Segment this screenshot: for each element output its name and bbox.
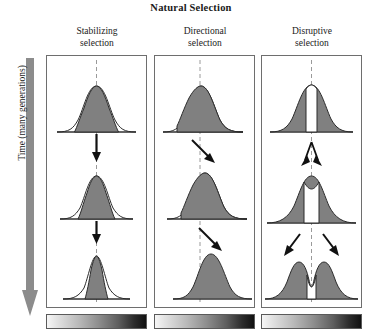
column-header-line2: selection	[45, 38, 149, 50]
column-header-line2: selection	[260, 38, 364, 50]
distribution-stage-2	[167, 173, 247, 219]
column-header-disruptive: Disruptive selection	[260, 26, 364, 49]
column-header-line1: Disruptive	[292, 26, 332, 36]
panel-directional	[154, 55, 255, 308]
disruptive-plot	[262, 56, 361, 307]
gradient-bar-directional	[154, 314, 255, 329]
panel-disruptive	[261, 55, 362, 308]
natural-selection-figure: Natural Selection Stabilizing selection …	[0, 0, 382, 336]
distribution-stage-1	[270, 85, 353, 132]
column-header-line1: Stabilizing	[76, 26, 117, 36]
gradient-bar-disruptive	[261, 314, 362, 329]
panel-stabilizing	[46, 55, 147, 308]
distribution-stage-2	[267, 176, 356, 223]
column-header-line2: selection	[153, 38, 257, 50]
distribution-stage-1	[163, 86, 243, 132]
column-header-stabilizing: Stabilizing selection	[45, 26, 149, 49]
distribution-stage-1	[57, 86, 136, 132]
arrow-stage-1-to-2	[192, 140, 215, 163]
time-axis-label: Time (many generations)	[17, 43, 27, 183]
distribution-stage-2	[60, 176, 133, 219]
figure-title: Natural Selection	[0, 2, 382, 13]
directional-plot	[155, 56, 254, 307]
arrow-stage-2-to-3	[92, 221, 101, 244]
gradient-bar-stabilizing	[46, 314, 147, 329]
column-header-directional: Directional selection	[153, 26, 257, 49]
arrow-stage-2-to-3	[199, 228, 222, 251]
distribution-stage-3	[173, 254, 252, 299]
arrow-stage-1-to-2	[92, 134, 101, 162]
column-header-line1: Directional	[184, 26, 227, 36]
distribution-stage-3	[63, 256, 130, 299]
stabilizing-plot	[47, 56, 146, 307]
